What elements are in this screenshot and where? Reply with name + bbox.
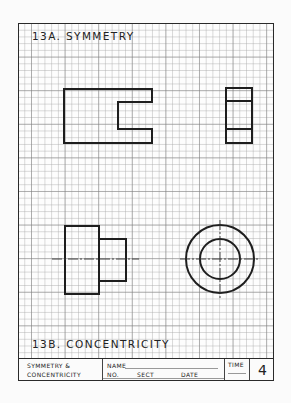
time-label: TIME xyxy=(228,361,244,368)
info-fill-line[interactable] xyxy=(103,378,224,379)
drawing-layer xyxy=(0,0,291,403)
sect-label: SECT xyxy=(137,371,154,378)
title-line-1: SYMMETRY & xyxy=(27,362,70,369)
title-line-2: CONCENTRICITY xyxy=(27,371,81,378)
sheet-number: 4 xyxy=(258,362,267,378)
student-info-cell: NAME NO. SECT DATE xyxy=(103,359,225,380)
title-cell: SYMMETRY & CONCENTRICITY xyxy=(19,359,103,380)
time-fill-line[interactable] xyxy=(228,373,246,374)
title-block: SYMMETRY & CONCENTRICITY NAME NO. SECT D… xyxy=(18,358,274,381)
name-label: NAME xyxy=(107,362,126,369)
circle-centerlines xyxy=(180,220,260,298)
time-cell: TIME xyxy=(225,359,250,380)
stepped-shaft-front-view xyxy=(65,226,126,294)
name-fill-line[interactable] xyxy=(125,368,218,369)
side-view xyxy=(226,88,252,143)
c-channel-front-view xyxy=(64,89,152,143)
date-label: DATE xyxy=(181,371,198,378)
no-label: NO. xyxy=(107,371,119,378)
sheet-number-cell: 4 xyxy=(250,359,273,380)
